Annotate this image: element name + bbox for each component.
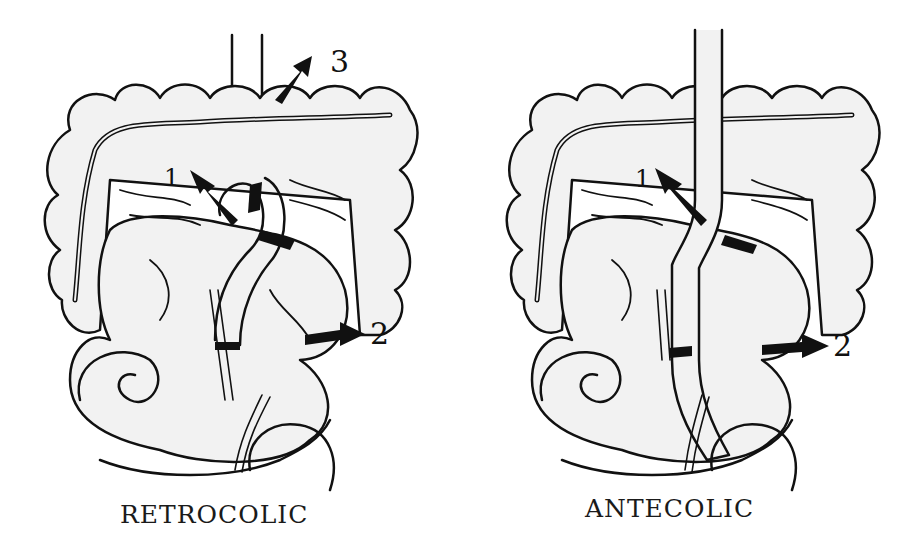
label-1: 1	[635, 165, 650, 193]
antecolic-illustration	[457, 0, 915, 551]
retrocolic-caption: RETROCOLIC	[120, 500, 308, 529]
retrocolic-panel: 3 1 2 RETROCOLIC	[0, 0, 457, 551]
label-1: 1	[164, 164, 179, 192]
antecolic-caption: ANTECOLIC	[585, 494, 754, 523]
antecolic-panel: 1 2 ANTECOLIC	[457, 0, 915, 551]
retrocolic-illustration	[0, 0, 457, 551]
label-3: 3	[330, 44, 349, 79]
label-2: 2	[370, 316, 389, 351]
label-2: 2	[833, 328, 852, 363]
